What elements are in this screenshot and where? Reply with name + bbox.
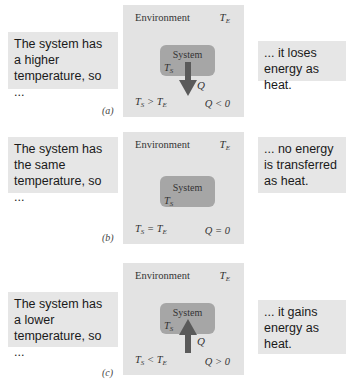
environment-box-a: Environment TE System TS Q TS > TE Q < 0 bbox=[123, 5, 244, 117]
right-caption-b: ... no energy is transferred as heat. bbox=[258, 137, 346, 193]
ts-label: TS bbox=[164, 320, 173, 333]
temperature-relation: TS > TE bbox=[135, 96, 167, 109]
right-caption-c: ... it gains energy as heat. bbox=[258, 300, 346, 354]
q-label: Q bbox=[197, 335, 205, 347]
panel-b: The system has the same temperature, so … bbox=[0, 127, 352, 252]
system-label: System bbox=[160, 182, 215, 193]
left-caption-a: The system has a higher temperature, so … bbox=[8, 32, 118, 89]
system-label: System bbox=[160, 307, 215, 318]
left-caption-c: The system has a lower temperature, so .… bbox=[8, 292, 118, 347]
panel-tag-a: (a) bbox=[102, 105, 114, 116]
q-relation: Q = 0 bbox=[205, 225, 230, 236]
panel-tag-b: (b) bbox=[102, 232, 114, 243]
q-relation: Q > 0 bbox=[205, 356, 230, 367]
heat-out-arrow-icon bbox=[179, 62, 197, 96]
environment-label: Environment bbox=[135, 270, 190, 281]
te-label: TE bbox=[220, 11, 230, 25]
te-label: TE bbox=[220, 269, 230, 283]
heat-in-arrow-icon bbox=[179, 319, 197, 353]
temperature-relation: TS < TE bbox=[135, 354, 167, 367]
environment-box-c: Environment TE System TS Q TS < TE Q > 0 bbox=[123, 263, 244, 375]
panel-tag-c: (c) bbox=[102, 367, 113, 378]
system-label: System bbox=[160, 49, 215, 60]
temperature-relation: TS = TE bbox=[135, 223, 167, 236]
environment-box-b: Environment TE System TS TS = TE Q = 0 bbox=[123, 132, 244, 244]
q-label: Q bbox=[197, 79, 205, 91]
right-caption-a: ... it loses energy as heat. bbox=[258, 41, 346, 81]
environment-label: Environment bbox=[135, 12, 190, 23]
ts-label: TS bbox=[164, 195, 173, 208]
left-caption-b: The system has the same temperature, so … bbox=[8, 137, 118, 193]
system-box-b: System TS bbox=[160, 176, 215, 207]
panel-a: The system has a higher temperature, so … bbox=[0, 0, 352, 125]
panel-c: The system has a lower temperature, so .… bbox=[0, 258, 352, 383]
q-relation: Q < 0 bbox=[205, 98, 230, 109]
environment-label: Environment bbox=[135, 139, 190, 150]
te-label: TE bbox=[220, 138, 230, 152]
ts-label: TS bbox=[164, 62, 173, 75]
